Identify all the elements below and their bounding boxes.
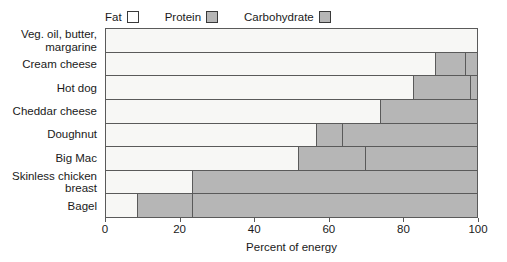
- bar-segment-protein: [414, 76, 472, 99]
- category-label: Doughnut: [0, 123, 101, 146]
- legend-entry-protein: Protein: [165, 11, 218, 23]
- bar-row: [106, 124, 477, 148]
- bar-segment-fat: [106, 124, 317, 147]
- category-label: Cream cheese: [0, 53, 101, 76]
- plot-area: [105, 28, 478, 218]
- category-label: Cheddar cheese: [0, 100, 101, 123]
- bar-row: [106, 53, 477, 77]
- bar-segment-carbohydrate: [193, 194, 477, 217]
- bar-row: [106, 100, 477, 124]
- bar-segment-protein: [193, 171, 477, 194]
- carbohydrate-swatch: [319, 11, 331, 23]
- legend-entry-carbohydrate: Carbohydrate: [244, 11, 331, 23]
- bar-segment-protein: [138, 194, 194, 217]
- category-label-line: Hot dog: [57, 82, 97, 95]
- x-axis-title: Percent of energy: [105, 240, 478, 254]
- category-label: Hot dog: [0, 76, 101, 99]
- bar-segment-carbohydrate: [343, 124, 477, 147]
- protein-swatch: [206, 11, 218, 23]
- bar-row: [106, 194, 477, 217]
- category-label-line: Big Mac: [55, 152, 97, 165]
- bar-segment-protein: [317, 124, 343, 147]
- bar-segment-fat: [106, 100, 381, 123]
- bar-segment-fat: [106, 53, 436, 76]
- x-axis-tick-label: 80: [397, 222, 410, 236]
- bar-segment-fat: [106, 147, 299, 170]
- stacked-bar-chart: Fat Protein Carbohydrate Veg. oil, butte…: [0, 0, 507, 262]
- x-axis-tick-label: 0: [102, 222, 108, 236]
- bar-segment-protein: [436, 53, 466, 76]
- category-label: Skinless chickenbreast: [0, 170, 101, 195]
- category-label-line: margarine: [21, 41, 97, 54]
- category-label-line: Bagel: [68, 200, 97, 213]
- x-axis-tick-label: 40: [248, 222, 261, 236]
- x-axis-tick-label: 20: [173, 222, 186, 236]
- category-label: Big Mac: [0, 146, 101, 169]
- bar-segment-fat: [106, 194, 138, 217]
- bar-segment-protein: [299, 147, 366, 170]
- category-axis-labels: Veg. oil, butter,margarineCream cheeseHo…: [0, 28, 101, 218]
- legend-entry-fat: Fat: [105, 11, 139, 23]
- bar-row: [106, 76, 477, 100]
- bar-row: [106, 147, 477, 171]
- category-label-line: Skinless chicken: [12, 170, 97, 183]
- bar-row: [106, 171, 477, 195]
- fat-swatch: [127, 11, 139, 23]
- bar-segment-carbohydrate: [471, 76, 477, 99]
- bar-rows: [106, 29, 477, 217]
- x-axis-tick-label: 60: [322, 222, 335, 236]
- category-label-line: Cream cheese: [22, 58, 97, 71]
- legend-label-carbohydrate: Carbohydrate: [244, 11, 314, 23]
- chart-legend: Fat Protein Carbohydrate: [105, 9, 357, 25]
- bar-row: [106, 29, 477, 53]
- x-axis-tick-label: 100: [468, 222, 487, 236]
- legend-label-protein: Protein: [165, 11, 201, 23]
- bar-segment-carbohydrate: [366, 147, 477, 170]
- bar-segment-fat: [106, 171, 193, 194]
- category-label: Veg. oil, butter,margarine: [0, 28, 101, 53]
- bar-segment-fat: [106, 76, 414, 99]
- bar-segment-protein: [381, 100, 477, 123]
- category-label-line: Doughnut: [47, 128, 97, 141]
- x-axis-tick-labels: 020406080100: [0, 222, 507, 238]
- category-label-line: breast: [12, 182, 97, 195]
- bar-segment-carbohydrate: [466, 53, 477, 76]
- category-label-line: Cheddar cheese: [13, 105, 97, 118]
- category-label-line: Veg. oil, butter,: [21, 28, 97, 41]
- category-label: Bagel: [0, 195, 101, 218]
- bar-segment-fat: [106, 29, 477, 52]
- legend-label-fat: Fat: [105, 11, 122, 23]
